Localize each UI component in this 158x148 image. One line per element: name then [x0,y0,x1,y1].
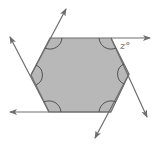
angle-label-z: z° [119,40,130,51]
hexagon-exterior-angle-diagram: z° [0,0,158,148]
